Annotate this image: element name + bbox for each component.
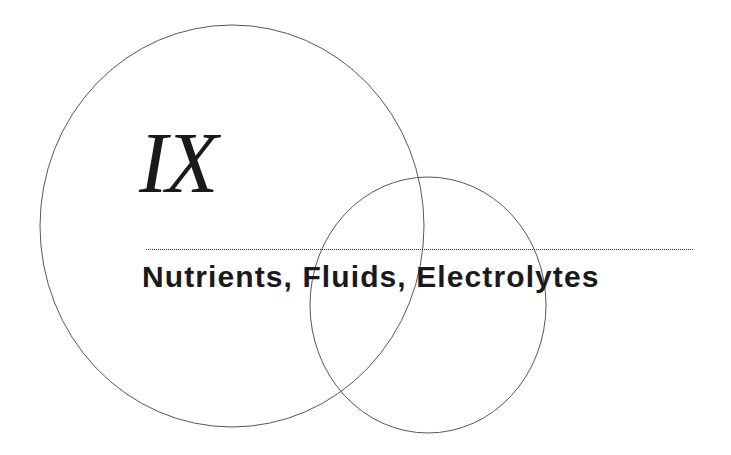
small-circle [310, 177, 546, 433]
chapter-title: Nutrients, Fluids, Electrolytes [142, 259, 600, 295]
overlapping-circles-decoration [0, 0, 731, 455]
large-circle [40, 25, 424, 427]
chapter-title-page: IX Nutrients, Fluids, Electrolytes [0, 0, 731, 455]
chapter-numeral: IX [139, 120, 216, 206]
dotted-divider [146, 249, 693, 250]
